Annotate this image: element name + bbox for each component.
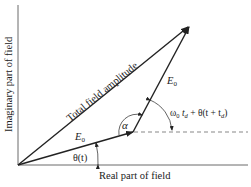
phasor-diagram: Total field amplitude E0 E0 θ(t) α ω0 td… — [0, 0, 251, 187]
alpha-label: α — [122, 119, 128, 131]
phase-label: ω0 td + θ(t + td) — [170, 108, 227, 119]
y-axis-label: Imaginary part of field — [3, 36, 14, 132]
x-axis-label: Real part of field — [99, 170, 171, 181]
total-field-label: Total field amplitude — [64, 59, 140, 123]
theta-arc — [96, 143, 98, 165]
phase-arc — [150, 100, 172, 130]
vector2-label: E0 — [166, 75, 177, 88]
vector1-label: E0 — [74, 131, 85, 144]
theta-label: θ(t) — [73, 152, 87, 164]
